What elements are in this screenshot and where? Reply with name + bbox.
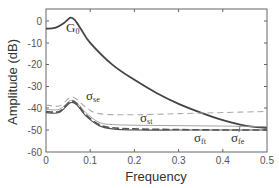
y-tick-1: -10 <box>28 38 43 49</box>
y-axis-label: Amplitude (dB) <box>5 39 20 125</box>
annotation-sigma-ft: σft <box>194 130 207 146</box>
series-line-1 <box>46 97 267 115</box>
x-tick-5: 0.5 <box>260 155 274 166</box>
chart: 0 0.1 0.2 0.3 0.4 0.5 Frequency 0 -10 -2… <box>0 0 279 188</box>
x-tick-1: 0.1 <box>83 155 97 166</box>
annotation-sigma-fe: σfe <box>231 130 245 146</box>
y-tick-6: -60 <box>28 147 43 158</box>
x-tick-4: 0.4 <box>216 155 230 166</box>
x-axis-label: Frequency <box>125 169 187 184</box>
y-tick-3: -30 <box>28 81 43 92</box>
annotations: G0 σse σst σft σfe <box>66 20 245 146</box>
x-tick-0: 0 <box>43 155 49 166</box>
annotation-sigma-st: σst <box>140 110 153 126</box>
y-tick-4: -40 <box>28 103 43 114</box>
annotation-sigma-se: σse <box>86 88 100 104</box>
x-tick-2: 0.2 <box>127 155 141 166</box>
y-tick-2: -20 <box>28 59 43 70</box>
x-tick-3: 0.3 <box>172 155 186 166</box>
annotation-pointer <box>239 126 240 132</box>
y-axis: 0 -10 -20 -30 -40 -50 -60 Amplitude (dB) <box>5 16 267 158</box>
y-tick-5: -50 <box>28 125 43 136</box>
y-tick-0: 0 <box>36 16 42 27</box>
